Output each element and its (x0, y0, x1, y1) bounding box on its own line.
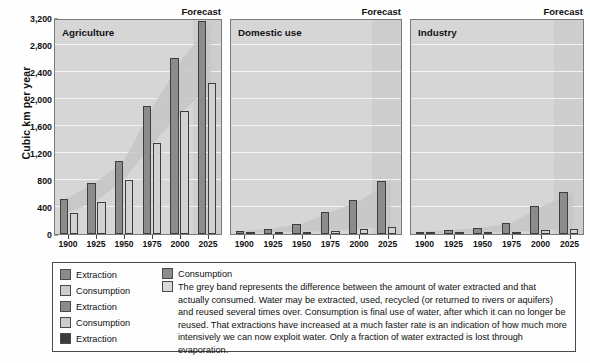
x-tick-label: 1925 (444, 239, 463, 249)
x-tick-label: 1925 (86, 239, 105, 249)
bar-extraction (559, 192, 568, 234)
bar-extraction (170, 58, 178, 234)
legend-label: Consumption (76, 318, 130, 328)
bar-extraction (87, 183, 95, 234)
bar-extraction (236, 231, 245, 234)
bar-consumption (208, 83, 216, 234)
bar-consumption (180, 111, 188, 234)
forecast-label: Forecast (181, 6, 221, 17)
legend-band-note: The grey band represents the difference … (162, 281, 569, 357)
legend-label: Extraction (76, 270, 117, 280)
bar-consumption (246, 232, 255, 234)
x-labels-industry: 190019251950197520002025 (410, 239, 584, 253)
bar-extraction (377, 181, 386, 234)
legend-label: Extraction (76, 302, 117, 312)
bar-extraction (530, 206, 539, 234)
x-labels-domestic-use: 190019251950197520002025 (230, 239, 402, 253)
bar-consumption (360, 229, 369, 234)
bar-consumption (570, 229, 579, 234)
bar-consumption (303, 232, 312, 234)
bar-extraction (264, 229, 273, 234)
bar-consumption (153, 143, 161, 234)
legend-swatch-icon (60, 301, 71, 312)
plot-area-agriculture: Agriculture (54, 19, 222, 235)
bar-consumption (541, 230, 550, 234)
legend-swatch-icon (162, 281, 173, 292)
bar-consumption (97, 202, 105, 234)
panel-agriculture: Forecast Agriculture 1900192519501975200… (54, 6, 222, 256)
legend-item: Extraction (60, 333, 156, 344)
panel-industry: Forecast Industry 1900192519501975200020… (410, 6, 584, 256)
legend-swatch-icon (162, 268, 173, 279)
legend-item: Extraction (60, 269, 156, 280)
legend-item-consumption-top: Consumption (162, 268, 569, 279)
x-labels-agriculture: 190019251950197520002025 (54, 239, 222, 253)
x-tick-label: 1900 (235, 239, 254, 249)
bar-consumption (455, 232, 464, 234)
x-tick-label: 1975 (142, 239, 161, 249)
x-tick-label: 2000 (170, 239, 189, 249)
legend-label: Consumption (178, 269, 232, 279)
x-tick-label: 1925 (263, 239, 282, 249)
legend-label: Extraction (76, 334, 117, 344)
bar-consumption (388, 227, 397, 234)
legend-swatch-icon (60, 333, 71, 344)
bar-extraction (321, 212, 330, 234)
plot-area-industry: Industry (410, 19, 584, 235)
legend-item: Consumption (60, 317, 156, 328)
panel-domestic-use: Forecast Domestic use 190019251950197520… (230, 6, 402, 256)
bar-consumption (331, 231, 340, 234)
x-tick-label: 1900 (58, 239, 77, 249)
bar-extraction (198, 21, 206, 234)
bar-consumption (512, 232, 521, 234)
forecast-label: Forecast (361, 6, 401, 17)
legend-note-text: The grey band represents the difference … (178, 281, 569, 357)
bar-extraction (416, 232, 425, 234)
legend-swatch-icon (60, 269, 71, 280)
x-tick-label: 1950 (473, 239, 492, 249)
bar-extraction (292, 224, 301, 234)
bar-extraction (473, 228, 482, 234)
x-tick-label: 1950 (114, 239, 133, 249)
bars-layer (231, 20, 401, 234)
x-tick-label: 1975 (502, 239, 521, 249)
legend-right-column: Consumption The grey band represents the… (156, 268, 569, 346)
bars-layer (55, 20, 221, 234)
x-tick-label: 2025 (560, 239, 579, 249)
x-tick-label: 2025 (378, 239, 397, 249)
bar-consumption (484, 232, 493, 234)
bar-extraction (115, 161, 123, 234)
forecast-label: Forecast (543, 6, 583, 17)
plot-area-domestic-use: Domestic use (230, 19, 402, 235)
water-use-chart-figure: Cubic km per year 04008001,2001,6002,000… (0, 0, 590, 363)
x-tick-label: 2025 (198, 239, 217, 249)
bar-consumption (125, 180, 133, 234)
x-tick-label: 1900 (415, 239, 434, 249)
x-tick-label: 1975 (321, 239, 340, 249)
x-tick-label: 2000 (349, 239, 368, 249)
legend-swatch-icon (60, 317, 71, 328)
panel-title: Industry (418, 27, 457, 38)
panels-row: Forecast Agriculture 1900192519501975200… (18, 6, 584, 256)
panel-title: Agriculture (62, 27, 114, 38)
legend-swatch-icon (60, 285, 71, 296)
bar-consumption (70, 213, 78, 234)
panel-title: Domestic use (238, 27, 302, 38)
x-tick-label: 1950 (292, 239, 311, 249)
legend-item: Extraction (60, 301, 156, 312)
bar-extraction (143, 106, 151, 234)
legend-item: Consumption (60, 285, 156, 296)
bar-extraction (444, 230, 453, 234)
bar-extraction (60, 199, 68, 234)
legend-box: ExtractionConsumptionExtractionConsumpti… (52, 262, 576, 352)
x-tick-label: 2000 (531, 239, 550, 249)
bar-consumption (426, 232, 435, 234)
bar-extraction (349, 200, 358, 234)
bars-layer (411, 20, 583, 234)
bar-consumption (275, 232, 284, 234)
bar-extraction (502, 223, 511, 234)
legend-label: Consumption (76, 286, 130, 296)
legend-left-column: ExtractionConsumptionExtractionConsumpti… (60, 268, 156, 346)
